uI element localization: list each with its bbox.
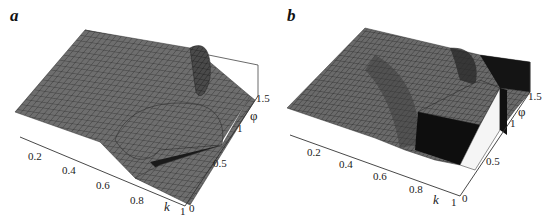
k-tick: 1 <box>451 196 457 208</box>
k-tick: 0.8 <box>409 183 423 195</box>
phi-axis-label: φ <box>250 108 258 123</box>
surface-plot-a: 0.2 0.4 0.6 0.8 1 k 0 0.5 1 1.5 φ <box>0 0 275 216</box>
k-tick: 0.4 <box>339 158 353 170</box>
k-tick: 0.6 <box>373 170 387 182</box>
panel-a: a 0.2 0.4 0.6 0.8 1 k <box>0 0 275 216</box>
k-tick: 1 <box>180 205 186 216</box>
phi-tick: 0.5 <box>213 157 227 169</box>
k-axis-label: k <box>433 192 439 207</box>
phi-tick: 1 <box>237 122 243 134</box>
k-tick: 0.4 <box>62 164 76 176</box>
k-tick: 0.2 <box>28 150 42 162</box>
k-tick: 0.8 <box>130 194 144 206</box>
surface-plot-b: 0.2 0.4 0.6 0.8 1 k 0 0.5 1 1.5 φ <box>275 0 550 216</box>
k-tick: 0.2 <box>307 146 321 158</box>
phi-tick: 1.5 <box>528 90 542 102</box>
k-axis-label: k <box>164 199 170 214</box>
phi-axis-label: φ <box>518 104 526 119</box>
phi-tick: 0 <box>189 202 195 214</box>
phi-tick: 0 <box>462 192 468 204</box>
phi-tick: 0.5 <box>486 155 500 167</box>
panel-b: b 0.2 0.4 0.6 0.8 1 k <box>275 0 550 216</box>
phi-tick: 1 <box>510 117 516 129</box>
phi-tick: 1.5 <box>256 92 270 104</box>
k-tick: 0.6 <box>96 179 110 191</box>
